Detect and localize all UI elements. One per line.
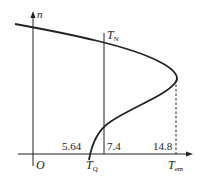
tq-label: TQ [86,159,98,173]
tn-label: TN [107,29,119,43]
n-axis-arrow-icon [31,11,36,18]
t-axis-label-sub: em [175,165,184,173]
tn-value: 7.4 [107,141,121,152]
tn-label-sub: N [114,35,119,43]
t-axis-label: Tem [168,159,183,173]
tq-label-main: T [86,158,93,172]
t-axis-arrow-icon [186,152,193,157]
tmax-value: 14.8 [153,141,172,152]
torque-speed-diagram: n TN 5.64 7.4 14.8 O TQ Tem [0,0,203,183]
tn-label-main: T [107,28,114,42]
tq-value: 5.64 [62,141,81,152]
n-axis-label: n [37,9,43,20]
t-axis-label-main: T [168,158,175,172]
origin-label: O [36,159,45,171]
diagram-graphics [0,0,203,183]
tq-label-sub: Q [93,165,98,173]
